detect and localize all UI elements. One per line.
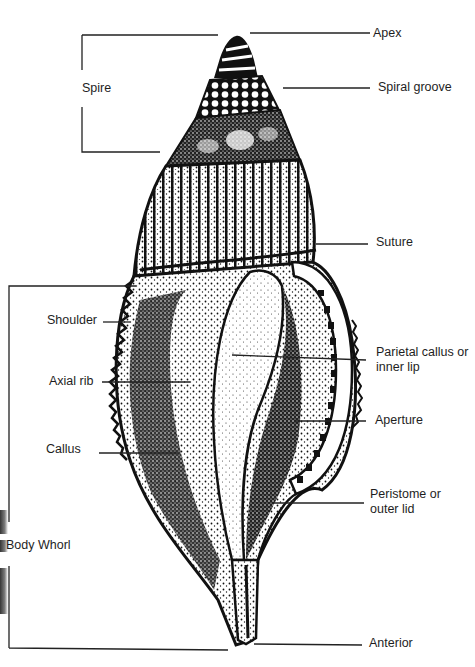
shell-illustration [0,0,475,667]
label-callus: Callus [46,442,81,457]
label-peristome: Peristome or outer lid [370,487,460,517]
shell-diagram: Apex Spire Spiral groove Suture Shoulder… [0,0,475,667]
penultimate-whorl [134,160,314,276]
label-spiral-groove: Spiral groove [378,80,452,95]
label-aperture: Aperture [375,413,423,428]
label-apex: Apex [373,26,402,41]
scan-artifact [0,510,8,534]
label-anterior: Anterior [369,636,413,651]
scan-artifact [0,568,8,614]
label-shoulder: Shoulder [47,313,97,328]
label-parietal-callus: Parietal callus or inner lip [376,345,472,375]
label-spire: Spire [82,81,111,96]
spire-shape [166,36,300,166]
label-axial-rib: Axial rib [49,374,93,389]
label-body-whorl: Body Whorl [6,538,71,553]
label-suture: Suture [376,235,413,250]
